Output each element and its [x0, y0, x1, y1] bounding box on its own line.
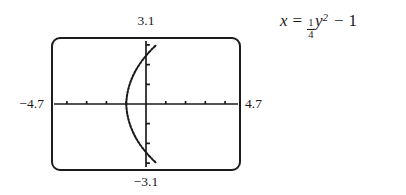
equation-fraction: 1 4 — [307, 18, 314, 40]
calculator-screen — [51, 37, 241, 171]
y-min-label: −3.1 — [51, 175, 241, 189]
fraction-denominator: 4 — [307, 29, 314, 41]
fraction-numerator: 1 — [307, 18, 314, 29]
y-max-label: 3.1 — [51, 14, 241, 28]
graph-svg — [53, 39, 239, 169]
plot-area — [53, 39, 239, 169]
equation-constant: 1 — [349, 12, 358, 29]
equation-label: x = 1 4 y 2 − 1 — [280, 12, 357, 40]
equation-minus-sign: − — [328, 12, 349, 29]
x-min-label: −4.7 — [20, 97, 45, 111]
equation-variable: y — [315, 12, 323, 29]
x-max-label: 4.7 — [245, 97, 262, 111]
equation-lhs: x — [280, 12, 288, 29]
equation-equals-sign: = — [288, 12, 308, 29]
